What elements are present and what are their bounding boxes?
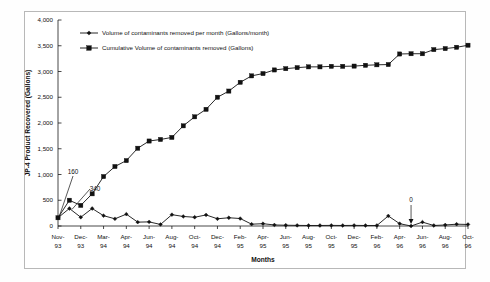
legend-label-1: Cumulative Volume of contaminants remove… <box>102 44 253 51</box>
legend-marker-square <box>87 46 92 51</box>
x-tick-label-year: 94 <box>168 242 175 249</box>
annotation-label-0: 0 <box>409 196 413 203</box>
chart-canvas: 05001,0001,5002,0002,5003,0003,5004,000J… <box>0 0 490 282</box>
data-point-cumulative <box>455 45 459 49</box>
y-tick-label: 4,000 <box>38 16 54 23</box>
annotation-arrowhead-0 <box>409 219 414 224</box>
data-point-monthly <box>238 217 242 221</box>
x-tick-label-month: Apr- <box>120 233 132 240</box>
x-tick-label-month: Aug- <box>302 233 315 240</box>
data-point-monthly <box>318 224 322 228</box>
x-tick-label-year: 95 <box>260 242 267 249</box>
x-tick-label-month: Jun- <box>416 233 428 240</box>
data-point-cumulative <box>79 203 83 207</box>
data-point-cumulative <box>420 52 424 56</box>
data-point-cumulative <box>67 198 71 202</box>
x-tick-label-year: 93 <box>77 242 84 249</box>
data-point-monthly <box>204 213 208 217</box>
x-tick-label-year: 94 <box>191 242 198 249</box>
data-point-monthly <box>216 217 220 221</box>
data-point-cumulative <box>227 89 231 93</box>
data-point-monthly <box>455 222 459 226</box>
data-point-cumulative <box>136 146 140 150</box>
x-tick-label-month: Feb- <box>371 233 384 240</box>
data-point-monthly <box>147 220 151 224</box>
x-tick-label-year: 94 <box>100 242 107 249</box>
data-point-cumulative <box>352 64 356 68</box>
x-tick-label-year: 96 <box>465 242 472 249</box>
data-point-monthly <box>409 224 413 228</box>
x-tick-label-month: Jun- <box>280 233 292 240</box>
data-point-cumulative <box>101 174 105 178</box>
x-tick-label-year: 94 <box>214 242 221 249</box>
x-tick-label-month: Feb- <box>234 233 247 240</box>
data-point-cumulative <box>56 216 60 220</box>
x-tick-label-month: Apr- <box>257 233 269 240</box>
x-tick-label-month: Aug- <box>165 233 178 240</box>
y-tick-label: 3,000 <box>38 68 54 75</box>
data-point-monthly <box>193 215 197 219</box>
data-point-monthly <box>341 224 345 228</box>
data-point-cumulative <box>272 68 276 72</box>
x-tick-label-month: Oct- <box>189 233 201 240</box>
data-point-monthly <box>432 224 436 228</box>
x-tick-label-month: Dec- <box>211 233 224 240</box>
x-tick-label-year: 94 <box>123 242 130 249</box>
x-tick-label-month: Nov- <box>51 233 64 240</box>
x-tick-label-month: Oct- <box>462 233 474 240</box>
data-point-cumulative <box>238 80 242 84</box>
data-point-monthly <box>181 215 185 219</box>
data-point-cumulative <box>466 43 470 47</box>
y-axis-title: JP-4 Product Recovered (Gallons) <box>24 70 32 177</box>
x-tick-label-year: 96 <box>419 242 426 249</box>
x-tick-label-year: 95 <box>282 242 289 249</box>
y-tick-label: 3,500 <box>38 42 54 49</box>
data-point-cumulative <box>124 158 128 162</box>
x-tick-label-year: 95 <box>305 242 312 249</box>
data-point-cumulative <box>170 135 174 139</box>
data-point-monthly <box>295 223 299 227</box>
data-point-monthly <box>113 217 117 221</box>
data-point-cumulative <box>250 74 254 78</box>
y-tick-label: 2,000 <box>38 119 54 126</box>
data-point-cumulative <box>193 115 197 119</box>
data-point-monthly <box>250 222 254 226</box>
data-point-monthly <box>261 222 265 226</box>
x-tick-label-month: Aug- <box>439 233 452 240</box>
data-point-cumulative <box>341 64 345 68</box>
data-point-cumulative <box>90 192 94 196</box>
data-point-monthly <box>352 223 356 227</box>
data-point-cumulative <box>306 65 310 69</box>
x-tick-label-month: Apr- <box>394 233 406 240</box>
data-point-cumulative <box>158 137 162 141</box>
data-point-monthly <box>284 223 288 227</box>
y-tick-label: 1,000 <box>38 171 54 178</box>
data-point-cumulative <box>398 52 402 56</box>
x-tick-label-year: 95 <box>237 242 244 249</box>
annotation-label-340: 340 <box>90 185 101 192</box>
data-point-cumulative <box>318 65 322 69</box>
data-point-cumulative <box>409 52 413 56</box>
y-tick-label: 2,500 <box>38 93 54 100</box>
x-tick-label-year: 95 <box>328 242 335 249</box>
x-tick-label-year: 95 <box>351 242 358 249</box>
data-point-monthly <box>364 224 368 228</box>
data-point-cumulative <box>147 139 151 143</box>
y-tick-label: 0 <box>50 222 54 229</box>
data-point-cumulative <box>181 124 185 128</box>
legend-marker-diamond <box>87 31 91 35</box>
x-tick-label-month: Jun- <box>143 233 155 240</box>
x-tick-label-year: 94 <box>146 242 153 249</box>
x-tick-label-year: 96 <box>396 242 403 249</box>
data-point-monthly <box>329 223 333 227</box>
chart-figure: 05001,0001,5002,0002,5003,0003,5004,000J… <box>0 0 490 282</box>
data-point-cumulative <box>443 46 447 50</box>
x-tick-label-year: 96 <box>373 242 380 249</box>
data-point-monthly <box>227 216 231 220</box>
y-tick-label: 500 <box>43 196 54 203</box>
data-point-cumulative <box>432 48 436 52</box>
x-tick-label-month: Oct- <box>325 233 337 240</box>
annotation-label-160: 160 <box>68 168 79 175</box>
data-point-cumulative <box>215 95 219 99</box>
data-point-cumulative <box>295 66 299 70</box>
